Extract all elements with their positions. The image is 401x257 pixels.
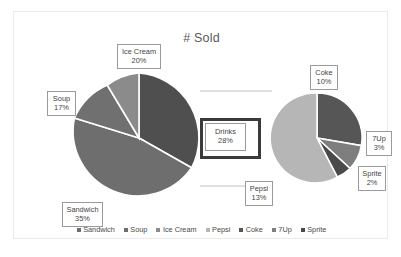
data-label-pepsi[interactable]: Pepsi 13%: [245, 181, 273, 206]
data-label-ice-cream[interactable]: Ice Cream 20%: [117, 44, 161, 69]
legend-entry[interactable]: Sandwich: [77, 225, 115, 234]
data-label-percent: 2%: [362, 178, 382, 187]
data-label-percent: 35%: [66, 214, 99, 223]
legend-label: Pepsi: [212, 225, 230, 234]
legend-label: Ice Cream: [163, 225, 197, 234]
legend-entry[interactable]: Soup: [124, 225, 148, 234]
data-label-category: Pepsi: [249, 184, 269, 193]
legend-entry[interactable]: Coke: [239, 225, 263, 234]
data-label-drinks[interactable]: Drinks 28%: [205, 123, 246, 151]
data-label-7up[interactable]: 7Up 3%: [366, 131, 392, 156]
data-label-category: 7Up: [370, 134, 388, 143]
legend-swatch-icon: [301, 228, 305, 232]
data-label-percent: 28%: [209, 136, 242, 145]
data-label-sandwich[interactable]: Sandwich 35%: [62, 202, 103, 227]
data-label-percent: 10%: [314, 77, 334, 86]
data-label-category: Sprite: [362, 169, 382, 178]
legend-swatch-icon: [272, 228, 276, 232]
data-label-category: Soup: [51, 94, 72, 103]
legend-entry[interactable]: Ice Cream: [156, 225, 196, 234]
legend-swatch-icon: [239, 228, 243, 232]
legend-label: Sprite: [307, 225, 326, 234]
data-label-category: Drinks: [209, 127, 242, 136]
data-label-soup[interactable]: Soup 17%: [47, 91, 76, 116]
legend-entry[interactable]: Sprite: [301, 225, 327, 234]
data-label-percent: 17%: [51, 103, 72, 112]
legend-label: Soup: [130, 225, 147, 234]
legend-entry[interactable]: Pepsi: [206, 225, 231, 234]
data-label-percent: 13%: [249, 193, 269, 202]
legend-swatch-icon: [156, 228, 160, 232]
data-label-category: Coke: [314, 68, 334, 77]
pie-slice-coke[interactable]: [317, 93, 362, 146]
data-label-sprite[interactable]: Sprite 2%: [358, 166, 386, 191]
data-label-percent: 20%: [121, 56, 157, 65]
data-label-coke[interactable]: Coke 10%: [310, 65, 338, 90]
legend-swatch-icon: [77, 228, 81, 232]
data-label-category: Sandwich: [66, 205, 99, 214]
legend-label: Sandwich: [83, 225, 115, 234]
chart-legend[interactable]: SandwichSoupIce CreamPepsiCoke7UpSprite: [14, 225, 389, 234]
legend-swatch-icon: [206, 228, 210, 232]
legend-swatch-icon: [124, 228, 128, 232]
legend-label: 7Up: [278, 225, 291, 234]
data-label-category: Ice Cream: [121, 47, 157, 56]
data-label-percent: 3%: [370, 143, 388, 152]
chart-container[interactable]: # Sold Ice Cream 20% Soup 17% Sandwich 3…: [13, 11, 388, 239]
legend-entry[interactable]: 7Up: [272, 225, 292, 234]
legend-label: Coke: [246, 225, 263, 234]
